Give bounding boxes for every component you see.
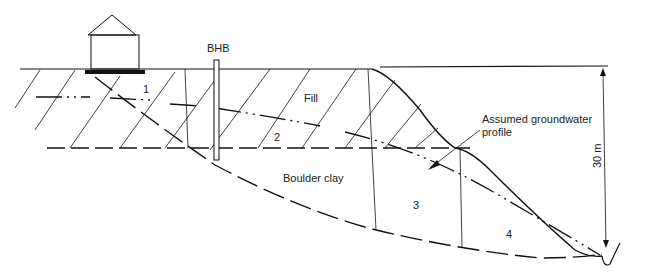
dimension-line [603,70,606,246]
slice-3-label: 3 [413,199,419,211]
slope-cross-section: BHB Fill Boulder clay Assumed groundwate… [0,0,648,275]
slice-1-label: 1 [143,83,149,95]
dimension-top-line [380,66,608,67]
house-icon [85,15,145,72]
groundwater-label-line1: Assumed groundwater [482,113,592,125]
toe [602,243,620,265]
fill-label: Fill [304,92,318,104]
slope-face [372,69,602,256]
dim-arrow-up-icon [600,68,606,76]
dim-arrow-down-icon [603,240,609,248]
slice-4-label: 4 [506,228,512,240]
borehole-bhb [214,60,219,160]
boulder-clay-label: Boulder clay [283,172,344,184]
slice-2-label: 2 [274,131,280,143]
slice-boundary [368,69,376,230]
borehole-label: BHB [207,42,230,54]
slice-boundary [460,148,462,248]
groundwater-label-line2: profile [482,126,512,138]
height-dimension-label: 30 m [591,144,603,168]
